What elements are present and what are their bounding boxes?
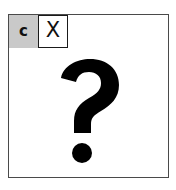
broken-image-header: c X xyxy=(9,15,68,48)
question-mark-glyph-text: ? xyxy=(88,112,89,113)
close-button[interactable]: X xyxy=(38,15,68,48)
broken-image-frame: c X ? xyxy=(8,14,169,178)
close-icon: X xyxy=(46,20,60,41)
header-letter-label: c xyxy=(9,15,38,48)
question-mark-icon: ? xyxy=(9,48,168,177)
screenshot-root: c X ? xyxy=(0,0,176,190)
question-mark-curve xyxy=(61,59,119,133)
question-mark-dot xyxy=(72,143,92,163)
